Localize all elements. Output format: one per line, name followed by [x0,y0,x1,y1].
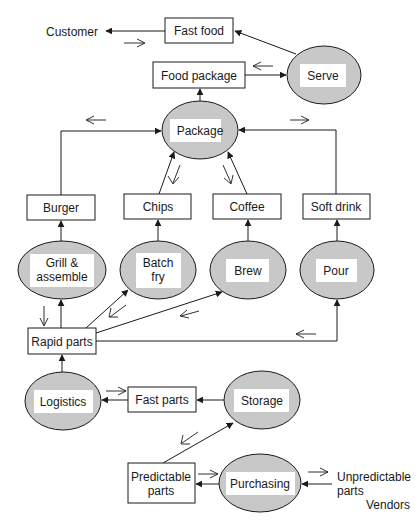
node-burger: Burger [27,195,95,220]
node-pour-label: Pour [323,264,348,278]
node-batch-fry-label-line1: Batch [143,256,174,270]
info-arrow-left [180,310,199,318]
info-arrow-right [124,39,145,47]
supply-chain-diagram: Customer Fast food Food package Serve Pa… [0,0,420,530]
edge-rapidparts-pour [96,300,337,341]
node-logistics: Logistics [25,372,101,430]
info-arrow-left [296,330,316,338]
node-purchasing: Purchasing [219,454,301,512]
node-burger-label: Burger [43,201,79,215]
node-fast-parts: Fast parts [128,387,196,412]
node-customer: Customer [46,25,98,39]
info-arrow-right [290,116,309,124]
node-logistics-label: Logistics [40,395,87,409]
node-predictable-parts: Predictable parts [128,463,195,503]
node-storage: Storage [224,371,300,429]
node-brew: Brew [210,241,286,299]
info-arrow-right [308,468,328,476]
node-chips: Chips [124,194,191,219]
node-serve-label: Serve [307,69,339,83]
node-food-package: Food package [153,62,245,88]
edge-chips-package [159,152,174,194]
node-serve: Serve [287,46,361,104]
node-package-label: Package [177,124,224,138]
node-fast-food-label: Fast food [174,24,224,38]
node-soft-drink: Soft drink [303,194,370,219]
node-predictable-parts-label-line1: Predictable [131,470,191,484]
info-arrow-right [106,387,126,395]
node-rapid-parts-label: Rapid parts [31,335,92,349]
node-grill-label-line1: Grill & [46,256,79,270]
node-chips-label: Chips [143,200,174,214]
node-food-package-label: Food package [161,69,237,83]
info-arrow-left [253,62,273,70]
edge-predictable-storage [163,423,233,463]
edge-serve-fastfood [235,31,296,54]
info-arrow-down-left [109,305,126,317]
node-purchasing-label: Purchasing [230,477,290,491]
info-arrow-right [198,470,218,478]
info-arrow-down [223,165,233,184]
node-storage-label: Storage [241,394,283,408]
info-arrow-down [168,165,180,184]
info-arrow-down-left [181,432,198,444]
node-coffee: Coffee [213,194,281,219]
edge-rapidparts-batchfry [86,290,128,328]
info-arrow-left [86,116,106,124]
node-batch-fry: Batch fry [120,241,196,299]
node-pour: Pour [300,241,374,299]
edge-burger-package [61,131,161,195]
node-fast-parts-label: Fast parts [135,393,188,407]
node-unpredictable-parts-line1: Unpredictable [337,470,411,484]
node-grill-label-line2: assemble [36,270,88,284]
node-brew-label: Brew [234,264,262,278]
edge-softdrink-package [239,130,336,194]
node-coffee-label: Coffee [229,200,264,214]
edge-coffee-package [228,152,247,194]
node-grill-assemble: Grill & assemble [18,241,106,299]
info-arrow-down [40,306,48,326]
node-rapid-parts: Rapid parts [28,328,96,354]
node-unpredictable-parts-line2: parts [337,484,364,498]
node-predictable-parts-label-line2: parts [148,484,175,498]
node-package: Package [162,101,238,159]
node-batch-fry-label-line2: fry [151,270,164,284]
node-vendors: Vendors [366,498,410,512]
node-fast-food: Fast food [165,18,233,43]
node-soft-drink-label: Soft drink [311,200,363,214]
